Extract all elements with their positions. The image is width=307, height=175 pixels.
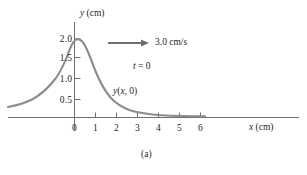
figure-caption: (a): [141, 150, 152, 160]
time-label: t = 0: [133, 62, 151, 72]
y-tick-label-1-5: 1.5: [48, 54, 72, 64]
curve-label-rest: , 0): [125, 86, 138, 96]
y-tick-label-0-5: 0.5: [48, 96, 72, 106]
time-value: 0: [146, 61, 151, 71]
x-tick-label-1: 1: [86, 124, 106, 134]
y-tick-label-2-0: 2.0: [48, 35, 72, 45]
figure-container: 2.0 1.5 1.0 0.5 0 1 2 3 4 5 6 y (cm) x (…: [0, 0, 307, 175]
y-axis-label-variable: y: [80, 8, 84, 18]
y-axis-label-unit: (cm): [87, 8, 105, 18]
x-tick-label-4: 4: [149, 124, 169, 134]
x-axis-label-variable: x: [249, 122, 253, 132]
x-axis-label-unit: (cm): [256, 122, 274, 132]
x-axis-label: x (cm): [249, 123, 274, 133]
x-tick-label-5: 5: [170, 124, 190, 134]
velocity-arrow-icon: [108, 39, 149, 46]
x-tick-label-2: 2: [107, 124, 127, 134]
x-tick-label-6: 6: [191, 124, 211, 134]
x-tick-label-0: 0: [65, 124, 85, 134]
y-axis-label: y (cm): [80, 9, 105, 19]
y-tick-label-1-0: 1.0: [48, 75, 72, 85]
x-tick-label-3: 3: [128, 124, 148, 134]
time-equals: =: [138, 61, 143, 71]
time-variable: t: [133, 61, 136, 71]
velocity-label: 3.0 cm/s: [155, 38, 187, 48]
wave-pulse-curve: [8, 39, 205, 116]
wave-pulse-plot: [0, 0, 307, 175]
y-axis-ticks: [75, 39, 81, 100]
curve-function-label: y(x, 0): [113, 87, 137, 97]
